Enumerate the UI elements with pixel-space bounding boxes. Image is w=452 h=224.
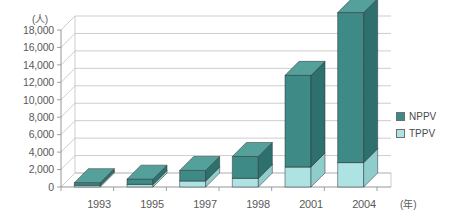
legend-item-nppv: NPPV [396, 108, 436, 125]
x-tick-label: 2004 [341, 198, 387, 210]
x-tick-label: 1993 [76, 198, 122, 210]
x-tick-label: 2001 [288, 198, 334, 210]
legend-swatch-tppv [396, 129, 405, 138]
chart-legend: NPPV TPPV [396, 108, 436, 142]
legend-swatch-nppv [396, 112, 405, 121]
plot-area [0, 0, 452, 224]
x-tick-label: 1998 [235, 198, 281, 210]
x-tick-label: 1995 [129, 198, 175, 210]
legend-label-tppv: TPPV [409, 128, 435, 139]
chart-container: (人) (年) 18,000 16,000 14,000 12,000 10,0… [0, 0, 452, 224]
x-tick-label: 1997 [182, 198, 228, 210]
legend-item-tppv: TPPV [396, 125, 436, 142]
legend-label-nppv: NPPV [409, 111, 436, 122]
